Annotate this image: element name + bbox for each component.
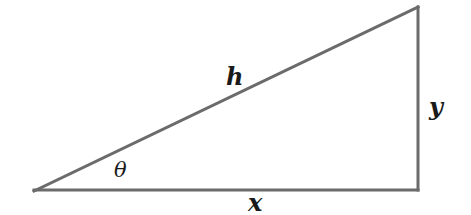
angle-theta-label: θ [114,160,127,181]
vertical-leg-label: y [429,95,443,119]
hypotenuse-label: h [226,65,243,89]
horizontal-leg-label: x [248,191,262,215]
hypotenuse-edge [34,7,418,191]
triangle-figure [0,0,471,215]
